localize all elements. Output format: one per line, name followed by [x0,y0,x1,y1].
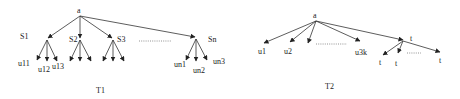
t1-leaf-u11: u11 [18,59,30,68]
t1-edge-sn-un3 [196,39,207,60]
t1-edge-s2-c3 [80,40,91,61]
t1-root-label: a [77,6,81,15]
t1-edge-a-sn [80,16,195,37]
tree-t2: a u1 u2 u3k t t t t T2 [258,11,442,91]
t2-edge-a-u1 [264,21,316,43]
t1-s2-label: S2 [69,35,77,44]
t2-t-child-2: t [395,59,398,68]
t2-leaf-u2: u2 [284,47,292,56]
t2-edge-t-c3 [403,41,440,52]
t1-edge-s1-u11 [37,40,47,60]
tree-t1: a S1 S2 S3 Sn u11 u12 u13 un1 u [18,6,225,95]
t2-leaf-u1: u1 [258,47,266,56]
t1-leaf-un2: un2 [193,66,205,75]
t2-t-child-1: t [379,58,382,67]
t2-root-label: a [313,11,317,20]
t1-s3-label: S3 [117,35,125,44]
t1-edge-s3-c1 [103,40,113,61]
t1-edge-s1-u13 [47,40,57,61]
t1-leaf-u12: u12 [38,65,50,74]
t2-t-node-label: t [410,34,413,43]
t1-caption: T1 [96,86,105,95]
diagram-canvas: a S1 S2 S3 Sn u11 u12 u13 un1 u [0,0,460,99]
t1-leaf-u13: u13 [52,62,64,71]
t2-caption: T2 [325,82,334,91]
t1-sn-label: Sn [208,35,216,44]
t1-s1-label: S1 [20,32,28,41]
tree-diagram: a S1 S2 S3 Sn u11 u12 u13 un1 u [0,0,460,99]
t2-edge-a-t [316,21,403,40]
t1-leaf-un3: un3 [213,57,225,66]
t2-leaf-u3k: u3k [355,48,367,57]
t2-t-child-3: t [439,56,442,65]
t1-edge-sn-un1 [186,39,196,60]
t1-leaf-un1: un1 [174,60,186,69]
t2-edge-a-u3k [316,21,360,41]
